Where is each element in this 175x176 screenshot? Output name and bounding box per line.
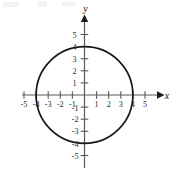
y-tick-label-3: 3 (72, 55, 76, 64)
x-tick-label--3: -3 (45, 100, 52, 109)
x-axis-label: x (164, 90, 170, 101)
y-tick-label--5: -5 (72, 152, 79, 161)
y-tick-label--1: -1 (72, 104, 79, 113)
circle-graph-figure: -5 -4 -3 -2 -1 1 2 3 4 5 5 4 3 2 1 -1 -2… (0, 0, 175, 176)
y-tick-label-2: 2 (72, 67, 76, 76)
y-tick-label--2: -2 (72, 115, 79, 124)
x-tick-label-5: 5 (143, 100, 147, 109)
x-tick-label-3: 3 (119, 100, 123, 109)
y-tick-label--4: -4 (72, 140, 79, 149)
x-tick-label--2: -2 (57, 100, 64, 109)
x-tick-label-1: 1 (95, 100, 99, 109)
y-axis-label: y (82, 3, 88, 14)
x-axis-arrow-icon (157, 91, 165, 98)
y-tick-label-5: 5 (72, 31, 76, 40)
y-tick-label-4: 4 (72, 43, 76, 52)
x-tick-label--5: -5 (21, 100, 28, 109)
y-axis-arrow-icon (81, 15, 88, 23)
y-tick-label-1: 1 (72, 79, 76, 88)
x-tick-label-4: 4 (131, 100, 135, 109)
coordinate-plane: -5 -4 -3 -2 -1 1 2 3 4 5 5 4 3 2 1 -1 -2… (0, 0, 175, 176)
x-tick-label-2: 2 (107, 100, 111, 109)
x-tick-label--4: -4 (33, 100, 40, 109)
y-tick-label--3: -3 (72, 127, 79, 136)
